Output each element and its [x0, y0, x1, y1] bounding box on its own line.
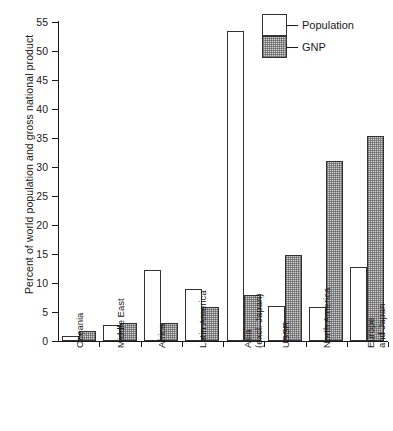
y-tick-label: 55: [24, 17, 48, 27]
x-axis-category-line: Asia: [243, 294, 254, 348]
x-axis-category-label: Latin America: [198, 290, 209, 348]
x-axis-category-line: USSR: [281, 322, 292, 348]
legend-label-gnp: GNP: [302, 42, 326, 53]
x-axis-category-label: Oceania: [75, 313, 86, 348]
y-tick-label: 15: [24, 249, 48, 259]
x-axis-category-label: Asia(excl. Japan): [243, 294, 264, 348]
x-axis-category-label: Europeand Japan: [366, 304, 387, 348]
plot-area: 0510152025303540455055: [58, 18, 388, 341]
y-tick-label: 20: [24, 220, 48, 230]
legend-label-population: Population: [302, 20, 354, 31]
x-tick-mark: [223, 342, 224, 347]
x-tick-mark: [264, 342, 265, 347]
x-tick-mark: [141, 342, 142, 347]
x-tick-mark: [182, 342, 183, 347]
x-tick-mark: [347, 342, 348, 347]
y-tick-label: 40: [24, 104, 48, 114]
y-tick-label: 0: [24, 336, 48, 346]
legend-swatch-population: [262, 14, 287, 36]
y-tick-label: 45: [24, 75, 48, 85]
x-tick-mark: [388, 342, 389, 347]
legend-leader-gnp: [287, 47, 298, 48]
bar-group: [141, 18, 182, 341]
x-tick-mark: [306, 342, 307, 347]
x-axis-category-line: Africa: [157, 324, 168, 348]
bar-group: [223, 18, 264, 341]
y-tick-label: 35: [24, 133, 48, 143]
y-tick-label: 50: [24, 46, 48, 56]
x-axis-category-line: and Japan: [377, 304, 388, 348]
bar-group: [264, 18, 305, 341]
x-axis-category-label: North America: [322, 288, 333, 348]
chart-container: Percent of world population and gross na…: [0, 0, 393, 431]
bar-population: [227, 31, 244, 341]
y-tick-label: 10: [24, 278, 48, 288]
x-axis-category-label: Middle East: [116, 298, 127, 348]
bar-group: [347, 18, 388, 341]
legend-swatch-gnp: [262, 36, 287, 58]
y-tick-label: 5: [24, 307, 48, 317]
x-axis-category-label: USSR: [281, 322, 292, 348]
y-tick-mark: [52, 341, 58, 342]
x-axis-category-line: (excl. Japan): [253, 294, 264, 348]
x-axis-category-line: North America: [322, 288, 333, 348]
legend-leader-population: [287, 25, 298, 26]
x-axis-category-line: Oceania: [75, 313, 86, 348]
bar-group: [58, 18, 99, 341]
y-tick-label: 30: [24, 162, 48, 172]
y-tick-label: 25: [24, 191, 48, 201]
x-axis-category-line: Latin America: [198, 290, 209, 348]
x-axis-category-line: Middle East: [116, 298, 127, 348]
x-axis-category-label: Africa: [157, 324, 168, 348]
x-tick-mark: [99, 342, 100, 347]
bar-group: [99, 18, 140, 341]
chart-legend: Population GNP: [262, 14, 390, 62]
